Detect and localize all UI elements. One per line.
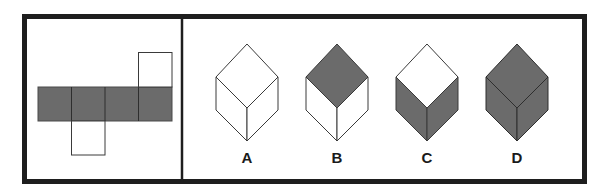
option-label: C [422,149,433,166]
option-label: A [242,149,253,166]
puzzle-figure: A B C D [0,0,609,191]
net-bottom-flap [72,121,106,155]
option-label: B [332,149,343,166]
option-label: D [512,149,523,166]
net-top-flap [139,53,173,88]
